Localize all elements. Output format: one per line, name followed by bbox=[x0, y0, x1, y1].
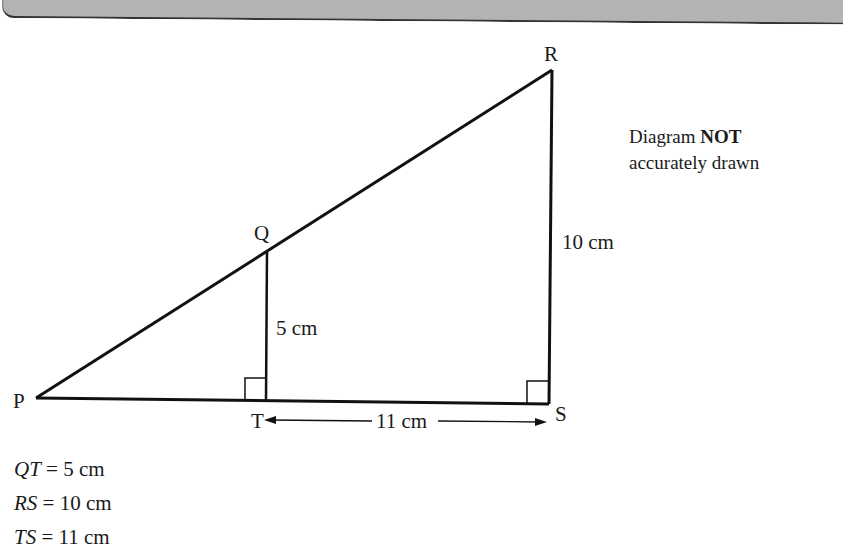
right-angle-marker-S bbox=[527, 381, 549, 403]
diagram-accuracy-note: Diagram NOT accurately drawn bbox=[629, 124, 759, 176]
given-row: TS = 11 cm bbox=[14, 520, 112, 554]
vertex-label-Q: Q bbox=[254, 221, 269, 245]
length-label-QT: 5 cm bbox=[276, 316, 317, 340]
vertex-label-T: T bbox=[251, 409, 264, 433]
note-line-2: accurately drawn bbox=[629, 150, 759, 176]
arrowhead-left-icon bbox=[264, 416, 276, 424]
right-angle-marker-T bbox=[245, 378, 266, 400]
side-PR bbox=[36, 70, 552, 398]
given-row: RS = 10 cm bbox=[14, 486, 112, 520]
dimension-line-right bbox=[438, 421, 540, 422]
vertex-label-P: P bbox=[13, 389, 25, 413]
note-emphasis: NOT bbox=[700, 126, 741, 147]
side-QT bbox=[266, 251, 267, 400]
given-lengths-list: QT = 5 cm RS = 10 cm TS = 11 cm bbox=[14, 452, 112, 554]
vertex-label-S: S bbox=[555, 402, 567, 426]
length-label-RS: 10 cm bbox=[562, 230, 614, 254]
length-label-TS: 11 cm bbox=[376, 409, 427, 433]
note-line-1: Diagram NOT bbox=[629, 124, 759, 150]
side-PS bbox=[36, 398, 549, 404]
given-row: QT = 5 cm bbox=[14, 452, 112, 486]
side-RS bbox=[549, 70, 552, 404]
arrowhead-right-icon bbox=[535, 418, 547, 426]
dimension-line-left bbox=[270, 420, 372, 421]
vertex-label-R: R bbox=[544, 42, 558, 66]
